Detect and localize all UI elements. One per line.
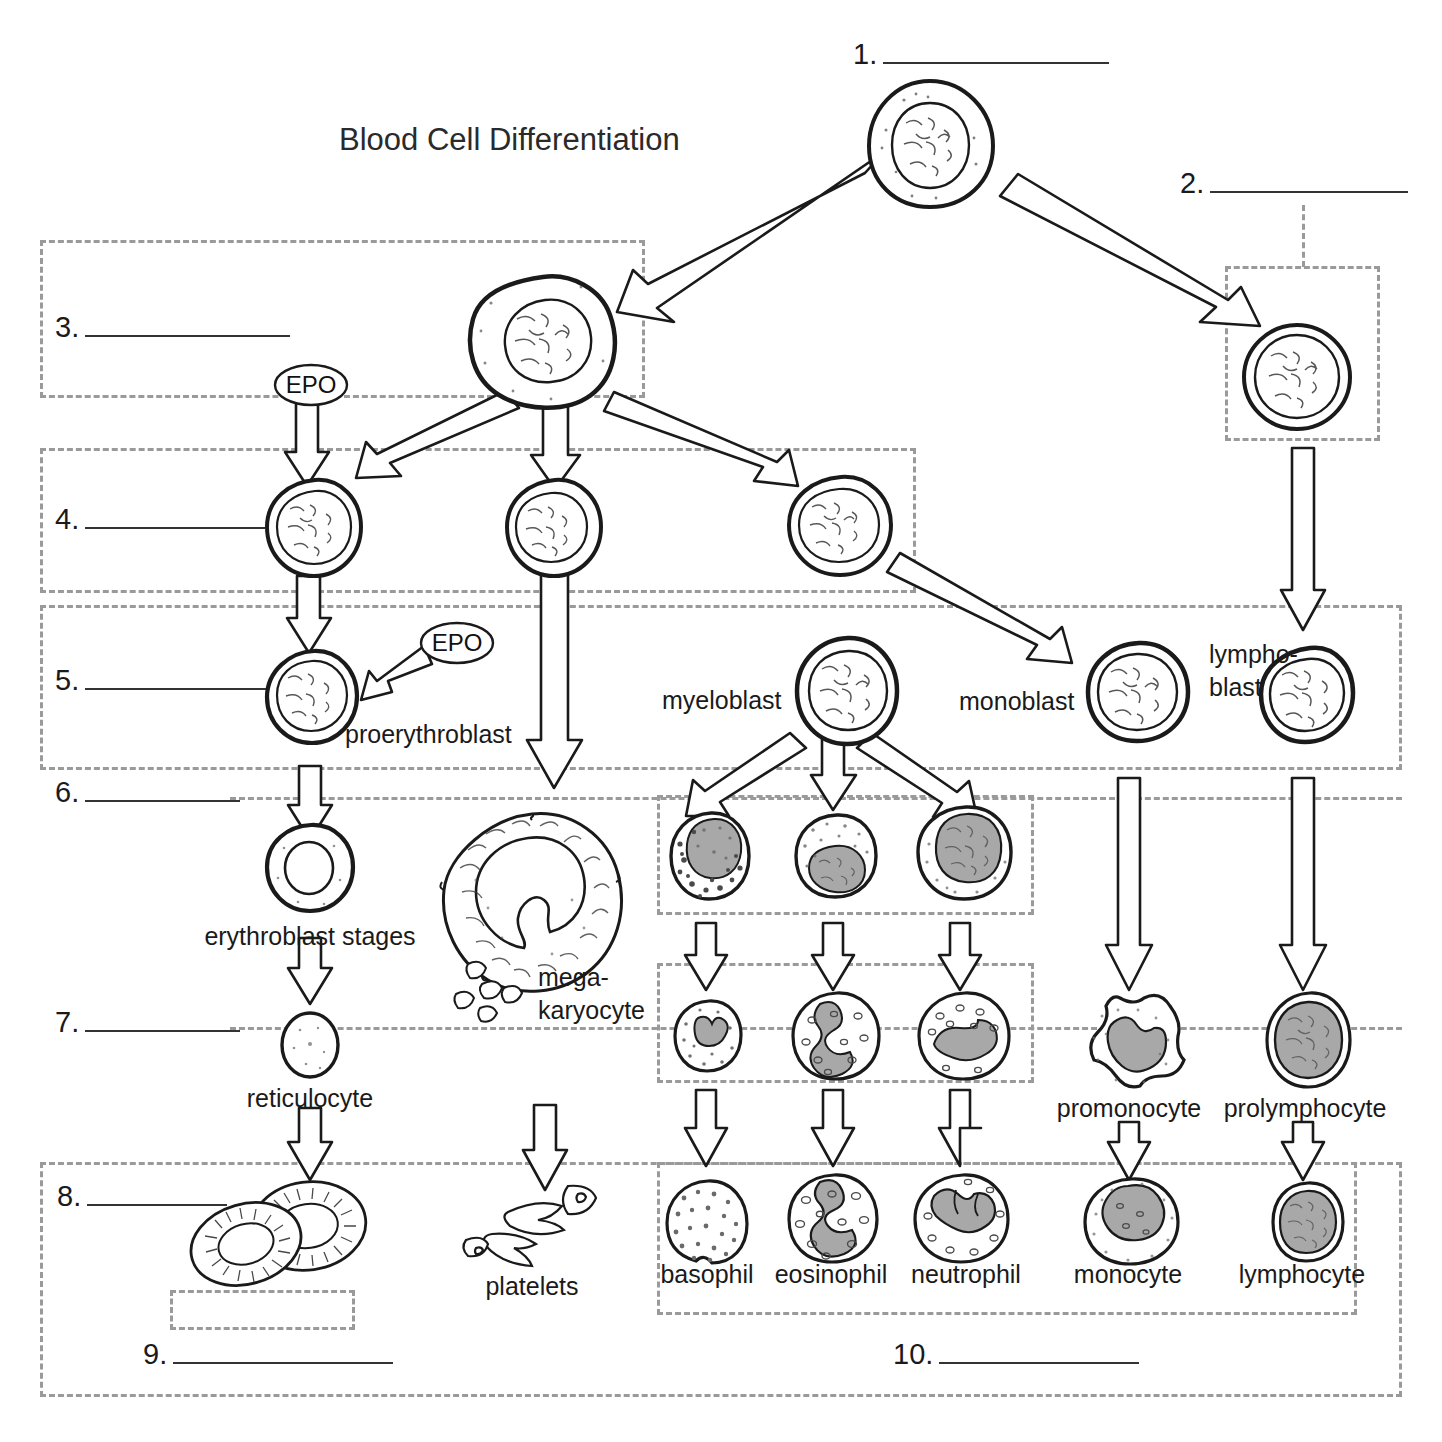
label-lymphocyte: lymphocyte — [1239, 1260, 1365, 1288]
arrow-monoblast-to-promonocyte — [1106, 778, 1152, 990]
arrow-basophil-pre-to-band — [685, 923, 727, 990]
label-prolymphocyte: prolymphocyte — [1224, 1094, 1387, 1122]
arrow-myeloblast-to-basophil-pre — [686, 733, 806, 816]
label-promonocyte: promonocyte — [1057, 1094, 1202, 1122]
arrow-reticulocyte-to-erythrocytes — [288, 1108, 332, 1180]
label-reticulocyte: reticulocyte — [247, 1084, 373, 1112]
label-myeloblast: myeloblast — [662, 686, 782, 714]
arrow-myeloblast-to-eosinophil-pre — [811, 737, 856, 810]
cell-neutrophil-precursor — [915, 804, 1015, 902]
label-lymphoblast-line1: lympho- — [1209, 640, 1298, 668]
cell-promonocyte — [1080, 994, 1184, 1096]
cell-erythrocytes — [178, 1178, 378, 1290]
label-neutrophil: neutrophil — [911, 1260, 1021, 1288]
arrow-promonocyte-to-monocyte — [1108, 1122, 1150, 1180]
cell-myeloid-stem-cell — [463, 273, 625, 411]
cell-myeloblast — [794, 635, 900, 747]
cell-eosinophil — [786, 1172, 880, 1266]
cell-megakaryocyte — [432, 808, 632, 1028]
arrow-stem-to-lymphoid — [1000, 174, 1260, 326]
epo-label-1: EPO — [286, 371, 337, 398]
cell-eosinophil-precursor — [793, 812, 879, 900]
arrow-eosinophil-pre-to-band — [812, 923, 854, 990]
cell-eosinophil-band — [790, 990, 882, 1082]
arrow-band-to-basophil — [685, 1090, 727, 1166]
growth-factor-epo-2: EPO — [418, 620, 496, 666]
cell-granulocyte-monocyte-progenitor — [786, 474, 894, 578]
label-eosinophil: eosinophil — [775, 1260, 888, 1288]
label-basophil: basophil — [660, 1260, 753, 1288]
arrow-neutrophil-pre-to-band — [939, 923, 981, 990]
cell-erythroid-progenitor — [264, 477, 364, 579]
label-monocyte: monocyte — [1074, 1260, 1182, 1288]
cell-neutrophil-band — [916, 990, 1012, 1082]
arrow-stem-to-myeloid — [617, 152, 884, 322]
arrow-band-to-neutrophil — [939, 1090, 981, 1166]
label-megakaryocyte-line1: mega- — [538, 963, 609, 991]
epo-label-2: EPO — [432, 629, 483, 656]
cell-basophil-band — [672, 998, 744, 1074]
cell-basophil — [664, 1178, 750, 1266]
arrow-progenitor-to-proerythroblast — [287, 576, 331, 653]
label-erythroblast-stages: erythroblast stages — [204, 922, 415, 950]
arrow-mega-to-platelets — [523, 1105, 567, 1190]
label-lymphoblast-line2: blast — [1209, 673, 1262, 701]
label-monoblast: monoblast — [959, 687, 1074, 715]
cell-platelets — [460, 1182, 610, 1278]
arrow-myeloid-to-myeloblast — [604, 392, 798, 486]
cell-neutrophil — [912, 1172, 1012, 1266]
arrow-prolymphocyte-to-lymphocyte — [1282, 1122, 1324, 1180]
arrow-to-monoblast — [887, 553, 1072, 663]
cell-erythroblast-stages — [264, 822, 356, 914]
arrow-epo-to-progenitor — [285, 403, 329, 486]
cell-monoblast — [1085, 640, 1191, 744]
label-platelets: platelets — [485, 1272, 578, 1300]
cell-monocyte — [1082, 1176, 1182, 1268]
cell-basophil-precursor — [668, 810, 752, 902]
cell-reticulocyte — [278, 1010, 342, 1080]
cell-stem-cell — [866, 78, 996, 210]
cell-lymphoid-stem-cell — [1241, 322, 1353, 432]
arrow-band-to-eosinophil — [812, 1090, 854, 1166]
cell-prolymphocyte — [1264, 990, 1354, 1090]
diagram-canvas: Blood Cell Differentiation 1. 2. 3. 4. 5… — [0, 0, 1442, 1442]
label-proerythroblast: proerythroblast — [345, 720, 512, 748]
growth-factor-epo-1: EPO — [272, 362, 350, 408]
cell-megakaryoblast — [504, 477, 604, 579]
cell-lymphocyte — [1270, 1180, 1346, 1264]
arrow-lymphoblast-to-prolymphocyte — [1280, 778, 1326, 990]
arrow-lymphoid-to-lymphoblast — [1281, 448, 1325, 630]
label-megakaryocyte-line2: karyocyte — [538, 996, 645, 1024]
